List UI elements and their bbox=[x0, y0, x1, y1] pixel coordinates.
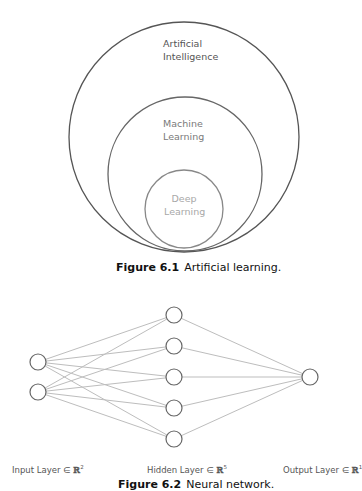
hidden-dimension: 5 bbox=[223, 464, 227, 470]
caption-text: Neural network. bbox=[186, 478, 274, 491]
input-node bbox=[30, 354, 46, 370]
network-edge bbox=[174, 377, 310, 408]
hidden-node bbox=[166, 400, 182, 416]
caption-number: Figure 6.1 bbox=[116, 261, 179, 274]
ml-circle-label: Machine Learning bbox=[163, 117, 204, 143]
network-edge bbox=[38, 392, 174, 439]
figure-6-1-caption: Figure 6.1Artificial learning. bbox=[116, 261, 281, 274]
input-layer-label: Input Layer ∈ ℝ2 bbox=[12, 464, 84, 475]
real-space-symbol: ℝ bbox=[352, 465, 359, 475]
caption-number: Figure 6.2 bbox=[118, 478, 181, 491]
hidden-node bbox=[166, 431, 182, 447]
dl-label-line1: Deep bbox=[164, 192, 204, 205]
output-node bbox=[302, 369, 318, 385]
input-layer-text: Input Layer ∈ bbox=[12, 465, 73, 475]
network-edge bbox=[38, 315, 174, 392]
network-edge bbox=[38, 392, 174, 408]
input-dimension: 2 bbox=[80, 464, 84, 470]
output-layer-label: Output Layer ∈ ℝ1 bbox=[283, 464, 362, 475]
dl-circle-label: Deep Learning bbox=[164, 192, 204, 218]
ml-label-line2: Learning bbox=[163, 130, 204, 143]
network-edge bbox=[174, 377, 310, 439]
dl-label-line2: Learning bbox=[164, 205, 204, 218]
caption-text: Artificial learning. bbox=[184, 261, 281, 274]
output-layer-text: Output Layer ∈ bbox=[283, 465, 352, 475]
hidden-node bbox=[166, 338, 182, 354]
ai-circle-label: Artificial Intelligence bbox=[163, 37, 218, 63]
hidden-node bbox=[166, 369, 182, 385]
ai-label-line2: Intelligence bbox=[163, 50, 218, 63]
ml-label-line1: Machine bbox=[163, 117, 204, 130]
network-edge bbox=[38, 377, 174, 392]
network-edge bbox=[174, 346, 310, 377]
network-edge bbox=[174, 315, 310, 377]
input-node bbox=[30, 384, 46, 400]
network-edge bbox=[38, 315, 174, 362]
hidden-layer-label: Hidden Layer ∈ ℝ5 bbox=[147, 464, 227, 475]
hidden-node bbox=[166, 307, 182, 323]
hidden-layer-text: Hidden Layer ∈ bbox=[147, 465, 216, 475]
ai-label-line1: Artificial bbox=[163, 37, 218, 50]
figure-6-2-caption: Figure 6.2Neural network. bbox=[118, 478, 274, 491]
